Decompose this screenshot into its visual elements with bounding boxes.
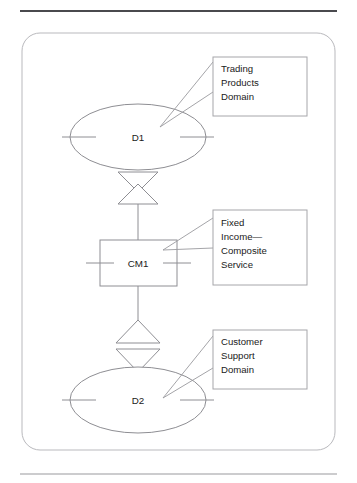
callout-fixed-income-line-1: Fixed (221, 217, 244, 228)
callout-fixed-income-line-2: Income— (221, 231, 262, 242)
connector-cm1-d2-upper-triangle (116, 320, 160, 343)
callout-customer-line-2: Support (221, 350, 255, 361)
connector-d1-cm1 (118, 172, 158, 240)
domain-node-d1-label: D1 (132, 132, 145, 143)
callout-trading-line-2: Products (221, 77, 259, 88)
figure-root: D1 CM1 D2 (0, 0, 357, 483)
callout-fixed-income-line-3: Composite (221, 245, 267, 256)
callout-trading-line-3: Domain (221, 91, 254, 102)
connector-d1-cm1-lower-triangle (118, 184, 158, 204)
domain-node-d1[interactable]: D1 (62, 104, 214, 170)
composite-service-node-cm1[interactable]: CM1 (86, 240, 191, 286)
callout-customer-line-1: Customer (221, 336, 263, 347)
domain-node-d2-label: D2 (132, 395, 145, 406)
callout-fixed-income-leader-upper (163, 218, 213, 250)
callout-customer-line-3: Domain (221, 364, 254, 375)
diagram-canvas: D1 CM1 D2 (0, 0, 357, 483)
callout-trading-line-1: Trading (221, 63, 253, 74)
composite-service-node-cm1-label: CM1 (128, 258, 149, 269)
callout-fixed-income-line-4: Service (221, 259, 253, 270)
callout-fixed-income-composite-service[interactable]: Fixed Income— Composite Service (163, 210, 307, 285)
domain-node-d2[interactable]: D2 (62, 367, 214, 433)
connector-cm1-d2 (116, 286, 160, 372)
